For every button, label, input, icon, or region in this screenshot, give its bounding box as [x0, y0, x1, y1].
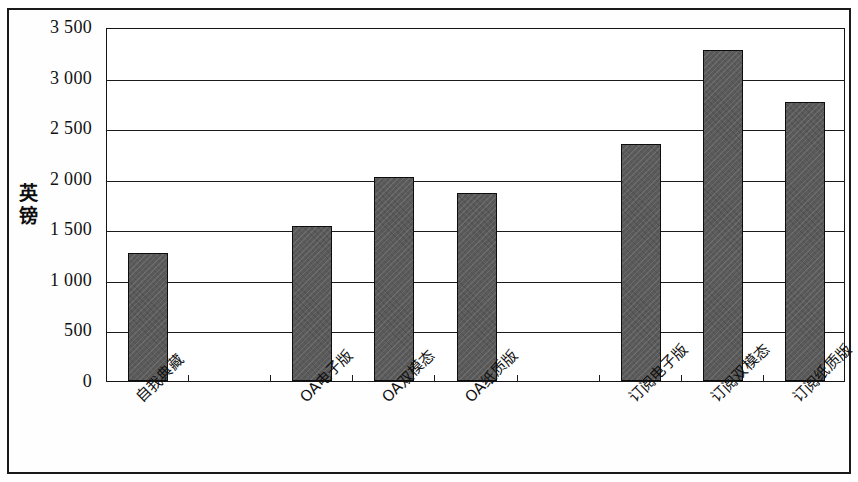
x-axis-tick: [188, 375, 189, 382]
x-axis-tick: [434, 375, 435, 382]
y-axis-tick-label: 3 000: [0, 69, 92, 87]
bar: [785, 102, 825, 381]
plot-area: [106, 28, 845, 382]
x-axis-tick: [681, 375, 682, 382]
bar: [703, 50, 743, 381]
x-axis-tick: [599, 375, 600, 382]
y-axis-tick-label: 500: [0, 321, 92, 339]
y-axis-tick-label: 2 500: [0, 119, 92, 137]
bar: [457, 193, 497, 381]
bar-chart: 英镑 05001 0001 5002 0002 5003 0003 500 自我…: [0, 0, 858, 482]
y-axis-tick-label: 2 000: [0, 170, 92, 188]
x-axis-tick: [517, 375, 518, 382]
bar: [374, 177, 414, 381]
y-axis-tick-label: 0: [0, 372, 92, 390]
y-axis-tick-label: 1 500: [0, 220, 92, 238]
y-axis-tick-label: 3 500: [0, 18, 92, 36]
x-axis-tick: [352, 375, 353, 382]
x-axis-tick: [270, 375, 271, 382]
x-axis-tick: [763, 375, 764, 382]
bar: [621, 144, 661, 381]
bar: [292, 226, 332, 381]
y-axis-tick-label: 1 000: [0, 271, 92, 289]
